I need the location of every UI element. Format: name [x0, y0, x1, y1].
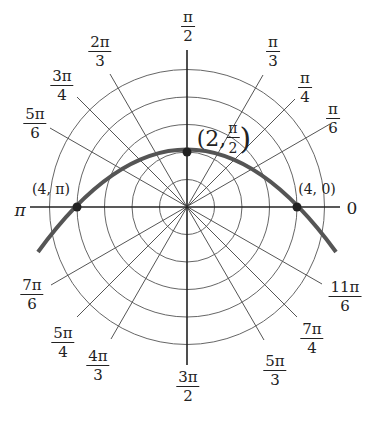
point-4-pi: [73, 203, 82, 212]
angle-label-5pi-4: 5π4: [51, 326, 74, 360]
angle-label-pi: π: [14, 202, 25, 219]
angle-label-0: 0: [347, 200, 358, 217]
point-label-4-pi: (4, π): [32, 181, 70, 197]
point-4-0: [293, 203, 302, 212]
polar-grid: [0, 0, 376, 426]
angle-label-7pi-4: 7π4: [300, 322, 323, 356]
angle-label-3pi-2: 3π2: [176, 370, 199, 404]
angle-label-4pi-3: 4π3: [86, 349, 109, 383]
angle-label-5pi-3: 5π3: [263, 354, 286, 388]
point-label-4-0: (4, 0): [298, 181, 336, 197]
angle-label-pi-4: π4: [298, 71, 312, 105]
angle-label-2pi-3: 2π3: [88, 35, 111, 69]
angle-label-7pi-6: 7π6: [20, 278, 43, 312]
angle-label-pi-2: π2: [181, 10, 195, 44]
point-label-2-pi-over-2: (2, π2 ): [197, 120, 252, 156]
angle-label-3pi-4: 3π4: [50, 69, 73, 103]
angle-label-5pi-6: 5π6: [23, 107, 46, 141]
point-2-pi-over-2: [183, 148, 192, 157]
angle-label-11pi-6: 11π6: [329, 280, 362, 314]
angle-label-pi-3: π3: [266, 35, 280, 69]
angle-label-pi-6: π6: [326, 102, 340, 136]
